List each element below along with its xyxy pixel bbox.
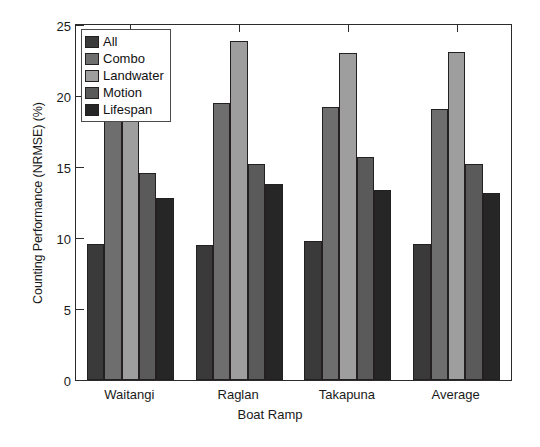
bar bbox=[431, 109, 448, 380]
legend-swatch-icon bbox=[85, 87, 99, 99]
x-axis-tick-label: Takapuna bbox=[319, 387, 375, 402]
bar bbox=[265, 184, 282, 380]
bar bbox=[304, 241, 321, 380]
bar bbox=[322, 107, 339, 380]
legend-swatch-icon bbox=[85, 104, 99, 116]
legend-swatch-icon bbox=[85, 36, 99, 48]
y-axis-tick-label: 15 bbox=[57, 161, 71, 176]
legend-item: Lifespan bbox=[85, 101, 164, 118]
legend-label: All bbox=[103, 35, 117, 48]
legend-item: All bbox=[85, 33, 164, 50]
y-axis-tick: 15 bbox=[76, 167, 84, 168]
bar bbox=[248, 164, 265, 380]
legend-item: Motion bbox=[85, 84, 164, 101]
y-axis-tick: 25 bbox=[76, 25, 84, 26]
legend-label: Lifespan bbox=[103, 103, 152, 116]
bar bbox=[104, 116, 121, 380]
y-axis-title: Counting Performance (NRMSE) (%) bbox=[31, 43, 45, 363]
legend-swatch-icon bbox=[85, 70, 99, 82]
bar bbox=[339, 53, 356, 380]
legend-label: Combo bbox=[103, 52, 145, 65]
chart-legend: AllComboLandwaterMotionLifespan bbox=[81, 29, 171, 122]
legend-item: Landwater bbox=[85, 67, 164, 84]
figure: Counting Performance (NRMSE) (%) AllComb… bbox=[0, 0, 540, 447]
y-axis-tick-label: 10 bbox=[57, 232, 71, 247]
bar bbox=[230, 41, 247, 380]
plot-area: AllComboLandwaterMotionLifespan 05101520… bbox=[75, 24, 512, 381]
y-axis-tick-label: 5 bbox=[64, 303, 71, 318]
x-axis-tick-top bbox=[348, 25, 349, 32]
bar bbox=[374, 190, 391, 380]
y-axis-tick: 10 bbox=[76, 238, 84, 239]
legend-label: Motion bbox=[103, 86, 142, 99]
legend-item: Combo bbox=[85, 50, 164, 67]
bar bbox=[465, 164, 482, 380]
bar bbox=[483, 193, 500, 380]
bar bbox=[139, 173, 156, 380]
x-axis-tick-label: Waitangi bbox=[104, 387, 154, 402]
y-axis-tick-label: 25 bbox=[57, 19, 71, 34]
bar bbox=[156, 198, 173, 380]
bar bbox=[213, 103, 230, 380]
bar bbox=[413, 244, 430, 380]
x-axis-tick-label: Average bbox=[432, 387, 480, 402]
bar bbox=[196, 245, 213, 380]
bar bbox=[87, 244, 104, 380]
x-axis-title: Boat Ramp bbox=[0, 407, 540, 422]
bar bbox=[448, 52, 465, 380]
x-axis-tick-top bbox=[239, 25, 240, 32]
legend-swatch-icon bbox=[85, 53, 99, 65]
y-axis-tick-label: 0 bbox=[64, 374, 71, 389]
y-axis-tick: 0 bbox=[76, 380, 84, 381]
y-axis-tick: 5 bbox=[76, 309, 84, 310]
legend-label: Landwater bbox=[103, 69, 164, 82]
x-axis-tick-top bbox=[457, 25, 458, 32]
x-axis-tick-label: Raglan bbox=[218, 387, 259, 402]
bar bbox=[357, 157, 374, 380]
y-axis-tick-label: 20 bbox=[57, 90, 71, 105]
